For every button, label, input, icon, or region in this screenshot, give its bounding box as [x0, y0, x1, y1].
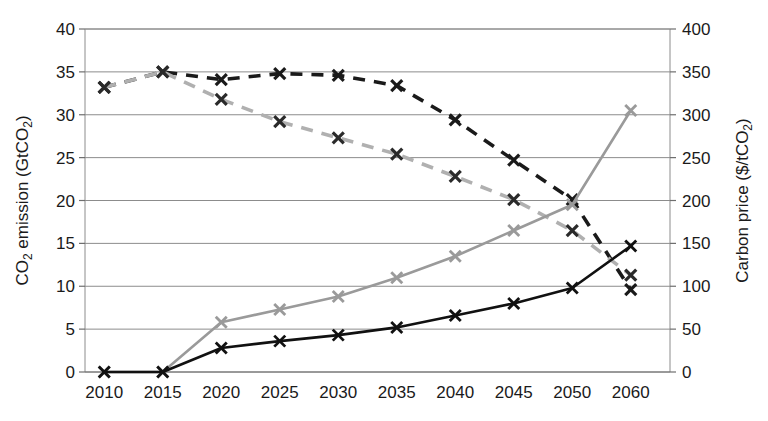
y-axis-tick-label: 0	[66, 363, 75, 382]
data-point-marker	[567, 225, 578, 236]
y2-axis-tick-label: 200	[682, 192, 710, 211]
y2-axis-tick-label: 400	[682, 20, 710, 39]
series-line-0	[104, 72, 631, 290]
y-axis-tick-label: 5	[66, 320, 75, 339]
y-axis-tick-labels: 0510152025303540	[56, 20, 85, 382]
y-axis-tick-label: 10	[56, 277, 75, 296]
data-point-marker	[508, 225, 519, 236]
x-axis-tick-label: 2030	[319, 383, 357, 402]
x-axis-tick-label: 2060	[612, 383, 650, 402]
y2-axis-tick-label: 150	[682, 234, 710, 253]
y-axis-tick-label: 25	[56, 149, 75, 168]
y2-axis-tick-label: 350	[682, 63, 710, 82]
y-axis-tick-label: 15	[56, 234, 75, 253]
y2-axis-tick-label: 0	[682, 363, 691, 382]
y-axis-tick-label: 35	[56, 63, 75, 82]
series-line-2	[104, 110, 631, 372]
x-axis-tick-label: 2010	[85, 383, 123, 402]
x-axis-tick-label: 2015	[144, 383, 182, 402]
chart-container: 0510152025303540 05010015020025030035040…	[0, 0, 768, 421]
data-point-marker	[450, 251, 461, 262]
data-series-layer	[99, 66, 637, 377]
y2-axis-tick-label: 250	[682, 149, 710, 168]
x-axis-tick-label: 2045	[495, 383, 533, 402]
data-point-marker	[625, 240, 636, 251]
x-axis-tick-label: 2050	[553, 383, 591, 402]
x-axis-tick-label: 2040	[436, 383, 474, 402]
x-axis-tick-label: 2025	[261, 383, 299, 402]
data-point-marker	[625, 270, 636, 281]
data-point-marker	[508, 155, 519, 166]
data-point-marker	[391, 80, 402, 91]
series-line-1	[104, 72, 631, 275]
co2-emission-carbon-price-chart: 0510152025303540 05010015020025030035040…	[0, 0, 768, 421]
y2-axis-tick-labels: 050100150200250300350400	[670, 20, 710, 382]
y-axis-tick-label: 20	[56, 192, 75, 211]
y2-axis-title: Carbon price ($/tCO2)	[733, 118, 755, 282]
y2-axis-tick-label: 50	[682, 320, 701, 339]
y2-axis-tick-label: 100	[682, 277, 710, 296]
y-axis-tick-label: 30	[56, 106, 75, 125]
x-axis-tick-label: 2020	[202, 383, 240, 402]
y2-axis-tick-label: 300	[682, 106, 710, 125]
data-point-marker	[450, 114, 461, 125]
y-axis-title: CO2 emission (GtCO2)	[13, 115, 35, 285]
x-axis-tick-labels: 2010201520202025203020352040204520502060	[85, 383, 649, 402]
x-axis-tick-label: 2035	[378, 383, 416, 402]
y-axis-tick-label: 40	[56, 20, 75, 39]
